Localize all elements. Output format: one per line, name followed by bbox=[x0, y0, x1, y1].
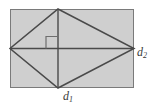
figure-canvas bbox=[0, 0, 154, 106]
diagonal-d1-label-subscript: 1 bbox=[69, 95, 73, 104]
diagonal-d1-label: d1 bbox=[63, 90, 73, 102]
geometry-figure: d1 d2 bbox=[0, 0, 154, 106]
diagonal-d2-label-subscript: 2 bbox=[143, 51, 147, 60]
diagonal-d2-label: d2 bbox=[137, 46, 147, 58]
